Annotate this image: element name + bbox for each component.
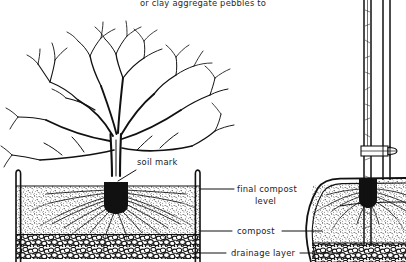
label-soil-mark: soil mark [137,157,178,167]
label-compost: compost [237,226,275,236]
label-final-compost-level-line1: final compost [237,184,297,194]
label-final-compost-level-line2: level [255,196,276,206]
planting-diagram: or clay aggregate pebbles to [0,0,406,262]
drainage-layer-left [16,235,200,259]
diagram-artwork [0,0,406,262]
tree-canopy [1,21,234,176]
label-drainage-layer: drainage layer [231,248,295,258]
tree-tie [361,146,397,156]
